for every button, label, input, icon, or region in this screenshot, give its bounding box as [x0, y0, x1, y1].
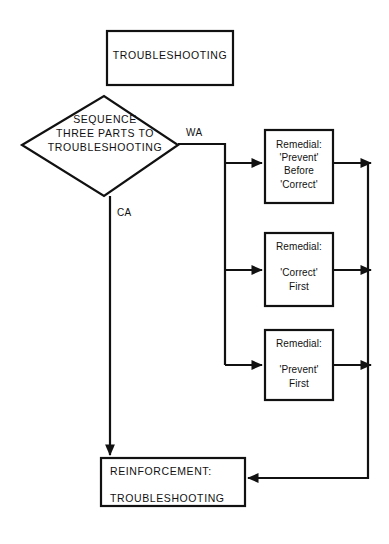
reinforcement-box-shape: [101, 458, 245, 506]
edge-label-wa: WA: [186, 127, 203, 138]
edge-label-ca: CA: [117, 207, 132, 218]
flowchart-svg: [0, 0, 389, 544]
remedial-box-1-shape: [265, 130, 333, 203]
decision-diamond-shape: [22, 96, 178, 196]
remedial-box-3-shape: [265, 330, 333, 400]
edge-collector-to-reinforcement: [248, 163, 368, 478]
remedial-box-2-shape: [265, 233, 333, 306]
edge-decision-to-wa-bus: [178, 144, 225, 365]
flowchart-canvas: TROUBLESHOOTING SEQUENCETHREE PARTS TOTR…: [0, 0, 389, 544]
title-box-shape: [107, 31, 233, 85]
